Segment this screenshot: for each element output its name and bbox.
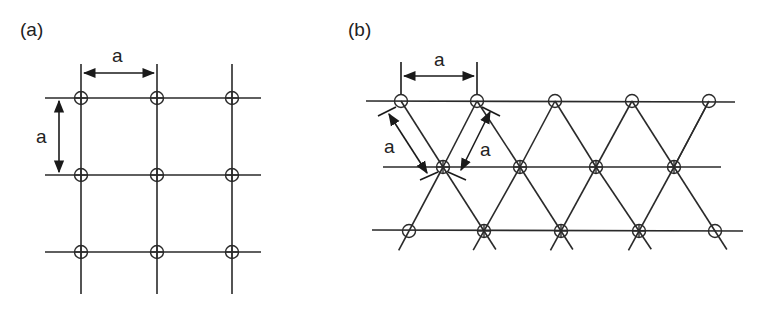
atom-site-icon xyxy=(478,225,491,238)
dimension-label-a-top: a xyxy=(434,49,445,70)
atom-site-icon xyxy=(75,169,88,182)
lattice-diagram: (a) a a (b) a xyxy=(0,0,766,309)
atom-site-icon xyxy=(226,92,239,105)
dimension-arrow-diagonal-left xyxy=(389,114,427,173)
atom-site-icon xyxy=(151,92,164,105)
panel-b-triangular-lattice: (b) a a a xyxy=(348,19,743,250)
dimension-label-a-diagonal-right: a xyxy=(480,139,491,160)
atom-site-icon xyxy=(226,169,239,182)
atom-site-icon xyxy=(151,169,164,182)
atom-site-icon xyxy=(633,225,646,238)
atom-site-icon xyxy=(437,161,450,174)
atom-site-icon xyxy=(226,246,239,259)
panel-a-square-lattice: (a) a a xyxy=(20,19,261,294)
atom-site-icon xyxy=(590,161,603,174)
atom-site-icon xyxy=(75,246,88,259)
panel-a-label: (a) xyxy=(20,19,43,40)
atom-site-icon xyxy=(75,92,88,105)
atom-site-icon xyxy=(668,161,681,174)
atom-site-icon xyxy=(514,161,527,174)
dimension-label-a-vertical: a xyxy=(36,126,47,147)
atom-site-icon xyxy=(555,225,568,238)
atom-site-icon xyxy=(151,246,164,259)
dimension-label-a-diagonal-left: a xyxy=(384,136,395,157)
dimension-label-a-horizontal: a xyxy=(112,45,123,66)
panel-b-label: (b) xyxy=(348,19,371,40)
